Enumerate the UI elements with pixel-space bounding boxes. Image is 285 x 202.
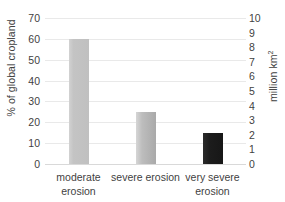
y-tick-label-secondary: 2 [249,130,275,141]
y-tick-label-primary: 20 [14,117,40,128]
axis-baseline [45,164,246,165]
y-tick-label-secondary: 9 [249,28,275,39]
y-tick-label-secondary: 4 [249,101,275,112]
gridline [45,18,246,19]
y-tick-label-secondary: 0 [249,159,275,170]
y-tick-label-secondary: 1 [249,144,275,155]
y-tick-label-secondary: 8 [249,42,275,53]
y-tick-label-primary: 30 [14,96,40,107]
x-axis-category-label: very severeerosion [169,170,256,198]
bar [203,133,223,164]
y-tick-label-secondary: 7 [249,57,275,68]
y-tick-label-secondary: 10 [249,13,275,24]
y-tick-label-primary: 10 [14,138,40,149]
category-label-line1: very severe [185,171,239,183]
x-axis-category-labels: moderateerosionsevere erosionvery severe… [45,170,246,202]
y-tick-label-primary: 50 [14,55,40,66]
y-tick-label-secondary: 5 [249,86,275,97]
y-tick-label-primary: 40 [14,76,40,87]
bar [136,112,156,164]
category-label-line1: moderate [56,171,100,183]
category-label-line2: erosion [169,184,256,198]
y-tick-label-primary: 70 [14,13,40,24]
bar-chart: % of global cropland million km2 7060504… [0,0,285,202]
y-tick-label-secondary: 6 [249,71,275,82]
y-tick-label-primary: 0 [14,159,40,170]
category-label-line2: erosion [35,184,122,198]
y-tick-label-secondary: 3 [249,115,275,126]
plot-area [45,18,246,164]
bar [69,39,89,164]
y-tick-label-primary: 60 [14,34,40,45]
